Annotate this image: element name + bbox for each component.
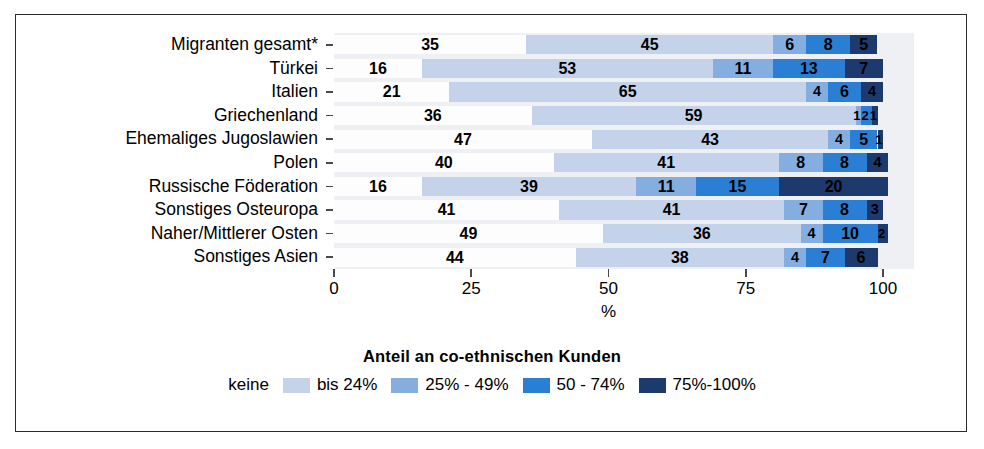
bar-segment-2 [636, 177, 696, 196]
legend-swatch-icon [283, 378, 310, 393]
bar-track: 2165464 [334, 82, 914, 101]
bar-row: 4041884 [334, 151, 914, 175]
bar-segment-4 [878, 130, 883, 149]
category-label-5: Polen [16, 151, 322, 175]
category-tick-7 [326, 209, 333, 211]
bar-row: 49364102 [334, 222, 914, 246]
category-tick-9 [326, 256, 333, 258]
bar-track: 4743451 [334, 130, 914, 149]
bar-segment-2 [801, 224, 823, 243]
bar-segment-4 [867, 200, 883, 219]
legend-label: keine [228, 375, 269, 395]
bar-row: 4438476 [334, 245, 914, 269]
legend-label: 50 - 74% [557, 375, 625, 395]
bar-segment-1 [449, 82, 806, 101]
bar-segment-1 [554, 153, 779, 172]
legend-label: 25% - 49% [425, 375, 508, 395]
bar-segment-0 [334, 106, 532, 125]
bar-segment-3 [850, 130, 877, 149]
bar-track: 49364102 [334, 224, 914, 243]
chart-frame: Migranten gesamt*TürkeiItalienGriechenla… [15, 14, 967, 432]
x-axis-title: % [601, 302, 616, 322]
stacked-bar-chart: Migranten gesamt*TürkeiItalienGriechenla… [16, 15, 968, 433]
bar-segment-3 [828, 82, 861, 101]
category-label-1: Türkei [16, 57, 322, 81]
x-axis-tick-1 [470, 269, 472, 277]
category-axis: Migranten gesamt*TürkeiItalienGriechenla… [16, 33, 322, 269]
legend-label: 75%-100% [673, 375, 756, 395]
category-label-7: Sonstiges Osteuropa [16, 198, 322, 222]
bar-row: 1639111520 [334, 175, 914, 199]
bar-segment-0 [334, 248, 576, 267]
legend-item-4[interactable]: 75%-100% [639, 375, 756, 395]
bar-track: 4141783 [334, 200, 914, 219]
bar-track: 1639111520 [334, 177, 914, 196]
bar-segment-1 [422, 59, 713, 78]
legend-item-3[interactable]: 50 - 74% [523, 375, 625, 395]
category-tick-5 [326, 162, 333, 164]
legend-swatch-icon [523, 378, 550, 393]
bar-segment-1 [526, 35, 773, 54]
bar-segment-0 [334, 177, 422, 196]
bar-row: 4141783 [334, 198, 914, 222]
bar-segment-4 [845, 248, 878, 267]
legend-item-1[interactable]: bis 24% [283, 375, 377, 395]
category-label-2: Italien [16, 80, 322, 104]
bar-segment-2 [806, 82, 828, 101]
value-axis: % 0255075100 [334, 269, 914, 329]
bar-segment-4 [850, 35, 877, 54]
bar-segment-3 [823, 224, 878, 243]
bar-segment-1 [603, 224, 801, 243]
category-tick-8 [326, 233, 333, 235]
bar-track: 4438476 [334, 248, 914, 267]
bar-segment-3 [696, 177, 778, 196]
bar-row: 3659121 [334, 104, 914, 128]
legend-item-0[interactable]: keine [228, 375, 269, 395]
bar-segment-4 [872, 106, 877, 125]
bar-segment-1 [576, 248, 785, 267]
bar-track: 4041884 [334, 153, 914, 172]
bar-segment-4 [845, 59, 883, 78]
bar-row: 3545685 [334, 33, 914, 57]
legend-swatch-icon [391, 378, 418, 393]
x-axis-tick-label-1: 25 [462, 279, 481, 299]
category-label-3: Griechenland [16, 104, 322, 128]
category-tick-3 [326, 115, 333, 117]
x-axis-tick-label-3: 75 [736, 279, 755, 299]
category-label-9: Sonstiges Asien [16, 245, 322, 269]
legend-item-2[interactable]: 25% - 49% [391, 375, 508, 395]
bar-segment-3 [823, 200, 867, 219]
x-axis-tick-label-4: 100 [869, 279, 897, 299]
category-label-6: Russische Föderation [16, 175, 322, 199]
category-label-0: Migranten gesamt* [16, 33, 322, 57]
legend-swatch-icon [639, 378, 666, 393]
bar-segment-0 [334, 224, 603, 243]
x-axis-tick-label-0: 0 [329, 279, 338, 299]
bar-segment-1 [559, 200, 784, 219]
category-tick-0 [326, 44, 333, 46]
bar-segment-0 [334, 200, 559, 219]
legend-items: keinebis 24%25% - 49%50 - 74%75%-100% [16, 375, 968, 395]
bar-segment-2 [713, 59, 773, 78]
bar-segment-0 [334, 153, 554, 172]
bar-segment-3 [861, 106, 872, 125]
x-axis-tick-label-2: 50 [599, 279, 618, 299]
bar-row: 165311137 [334, 57, 914, 81]
bar-segment-0 [334, 82, 449, 101]
category-tick-1 [326, 68, 333, 70]
bar-segment-2 [784, 200, 822, 219]
bar-segment-3 [806, 248, 844, 267]
bar-segment-1 [592, 130, 828, 149]
bar-segment-3 [806, 35, 850, 54]
bar-segment-2 [784, 248, 806, 267]
category-label-4: Ehemaliges Jugoslawien [16, 127, 322, 151]
bar-segment-3 [823, 153, 867, 172]
x-axis-tick-3 [745, 269, 747, 277]
bar-segment-4 [878, 224, 889, 243]
category-tick-4 [326, 138, 333, 140]
bar-segment-0 [334, 35, 526, 54]
bar-row: 2165464 [334, 80, 914, 104]
bar-segment-4 [779, 177, 889, 196]
bar-segment-2 [779, 153, 823, 172]
bar-segment-4 [867, 153, 889, 172]
